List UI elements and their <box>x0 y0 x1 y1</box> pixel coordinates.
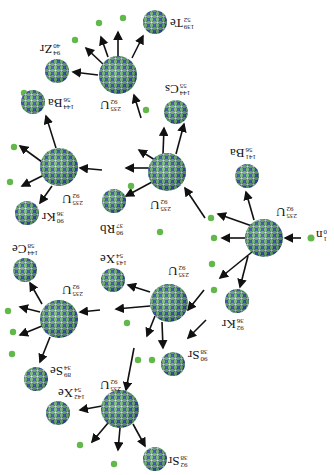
element-symbol: Kr <box>42 210 56 225</box>
arrow-icon <box>147 316 155 336</box>
arrow-icon <box>46 116 56 148</box>
arrow-icon <box>188 320 206 338</box>
neutron-icon <box>11 144 17 150</box>
mass-number: 144 <box>27 249 38 256</box>
nucleus-u3 <box>99 56 137 94</box>
isotope-label-u5: 23592U <box>168 264 189 279</box>
element-symbol: U <box>62 283 71 298</box>
isotope-label-sr90: 9038Sr <box>188 348 208 363</box>
nucleus-kr92 <box>225 289 249 313</box>
nucleus-rb90 <box>102 189 126 213</box>
neutron-icon <box>111 461 117 467</box>
atomic-number: 0 <box>324 228 328 235</box>
element-symbol: Ba <box>230 146 244 161</box>
atomic-number: 40 <box>53 42 60 49</box>
arrow-icon <box>116 306 150 309</box>
arrow-icon <box>73 72 98 75</box>
arrow-icon <box>92 423 108 442</box>
arrow-icon <box>220 252 252 278</box>
atomic-number: 92 <box>72 192 83 199</box>
nucleus-sr90 <box>161 352 185 376</box>
neutron-icon <box>72 37 78 43</box>
neutron-icon <box>157 229 163 235</box>
nucleus-ce144 <box>13 258 37 282</box>
neutron-icon <box>5 308 11 314</box>
nucleus-u2 <box>148 153 186 191</box>
isotope-label-xe142: 14254Xe <box>58 386 85 401</box>
arrow-icon <box>20 146 42 162</box>
atomic-number: 34 <box>64 364 71 371</box>
mass-number: 89 <box>64 371 71 378</box>
arrow-icon <box>22 175 44 186</box>
nucleus-ba141 <box>235 164 259 188</box>
isotope-label-u4: 23592U <box>62 192 83 207</box>
nucleus-zr94 <box>45 59 69 83</box>
arrow-icon <box>132 36 143 58</box>
arrow-icon <box>86 48 104 65</box>
atomic-number: 38 <box>201 348 208 355</box>
mass-number: 139 <box>184 23 195 30</box>
atomic-number: 52 <box>184 16 195 23</box>
isotope-label-rb90: 9037Rb <box>100 222 123 237</box>
mass-number: 235 <box>72 290 83 297</box>
element-symbol: Zr <box>40 42 52 57</box>
neutron-icon <box>124 320 130 326</box>
arrow-icon <box>162 322 163 348</box>
isotope-label-sr92: 9238Sr <box>168 454 188 469</box>
neutron-icon <box>209 261 215 267</box>
neutron-icon <box>208 215 214 221</box>
arrow-icon <box>20 326 42 335</box>
nucleus-sr92 <box>143 447 167 471</box>
element-symbol: Kr <box>222 317 236 332</box>
atomic-number: 92 <box>160 198 171 205</box>
neutron-icon <box>9 351 15 357</box>
arrow-icon <box>80 310 100 312</box>
arrow-icon <box>40 337 50 362</box>
nucleus-u5 <box>150 284 188 322</box>
element-symbol: U <box>62 192 71 207</box>
mass-number: 143 <box>116 259 127 266</box>
neutron-icon <box>77 442 83 448</box>
element-symbol: U <box>276 205 285 220</box>
mass-number: 235 <box>160 205 171 212</box>
mass-number: 235 <box>110 385 121 392</box>
atomic-number: 36 <box>57 210 64 217</box>
atomic-number: 56 <box>63 96 74 103</box>
element-symbol: U <box>168 264 177 279</box>
atomic-number: 92 <box>178 264 189 271</box>
element-symbol: Xe <box>58 386 73 401</box>
isotope-label-kr90: 9036Kr <box>42 210 64 225</box>
diagram-canvas <box>0 0 334 475</box>
arrow-icon <box>185 188 205 218</box>
element-symbol: Ce <box>12 242 26 257</box>
mass-number: 90 <box>201 355 208 362</box>
fission-diagram: 10n23592U14156Ba9236Kr23592U14455Cs9037R… <box>0 0 334 475</box>
nucleus-te139 <box>143 10 167 34</box>
element-symbol: U <box>100 378 109 393</box>
isotope-label-kr92: 9236Kr <box>222 317 244 332</box>
isotope-label-cs144: 14455Cs <box>165 82 190 97</box>
atomic-number: 54 <box>74 386 85 393</box>
mass-number: 235 <box>110 105 121 112</box>
nucleus-u6 <box>40 300 78 338</box>
element-symbol: Sr <box>168 454 180 469</box>
isotope-label-te139: 13952Te <box>170 16 194 31</box>
nucleus-u4 <box>40 148 78 186</box>
arrow-icon <box>139 150 155 160</box>
arrow-icon <box>133 424 145 446</box>
element-symbol: U <box>150 198 159 213</box>
isotope-label-n: 10n <box>316 228 327 243</box>
arrow-icon <box>30 283 42 304</box>
neutron-icon <box>143 107 149 113</box>
atomic-number: 36 <box>237 317 244 324</box>
arrow-icon <box>101 37 108 57</box>
atomic-number: 92 <box>286 205 297 212</box>
mass-number: 144 <box>63 103 74 110</box>
arrow-icon <box>40 186 52 203</box>
arrow-icon <box>118 428 120 450</box>
neutron-icon <box>149 357 155 363</box>
isotope-label-u3: 23592U <box>100 98 121 113</box>
mass-number: 144 <box>180 89 191 96</box>
atomic-number: 92 <box>72 283 83 290</box>
isotope-label-u1: 23592U <box>276 205 297 220</box>
